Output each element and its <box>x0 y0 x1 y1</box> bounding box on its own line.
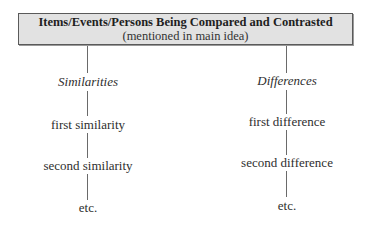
connector-line <box>286 130 287 155</box>
similarities-heading: Similarities <box>58 74 118 89</box>
difference-item: second difference <box>241 155 333 170</box>
header-subtitle: (mentioned in main idea) <box>19 29 352 43</box>
similarity-item: second similarity <box>43 158 132 173</box>
header-title: Items/Events/Persons Being Compared and … <box>19 14 352 29</box>
connector-line <box>87 91 88 116</box>
differences-heading: Differences <box>257 73 316 88</box>
difference-item: etc. <box>278 198 296 213</box>
similarity-item: first similarity <box>51 117 125 132</box>
similarity-item: etc. <box>79 200 97 215</box>
connector-line <box>286 90 287 114</box>
main-idea-box: Items/Events/Persons Being Compared and … <box>18 13 353 45</box>
connector-line <box>286 46 287 73</box>
connector-line <box>87 46 88 73</box>
difference-item: first difference <box>249 114 326 129</box>
connector-line <box>286 171 287 197</box>
connector-line <box>87 174 88 200</box>
connector-line <box>87 133 88 158</box>
